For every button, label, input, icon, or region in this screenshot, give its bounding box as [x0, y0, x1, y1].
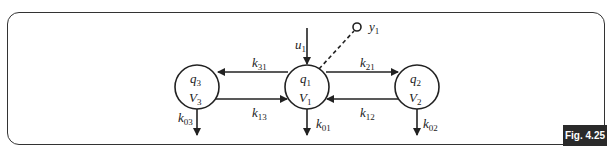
figure-number-label: Fig. 4.25 — [563, 125, 607, 146]
label-q3: q3 — [190, 71, 202, 88]
label-k02: k02 — [423, 116, 438, 133]
label-V2: V2 — [409, 90, 421, 107]
output-line-y1 — [319, 31, 354, 69]
label-V1: V1 — [299, 90, 311, 107]
label-y1: y1 — [367, 19, 379, 36]
label-q2: q2 — [410, 71, 421, 88]
label-q1: q1 — [300, 71, 311, 88]
compartment-diagram: q3 V3 q1 V1 q2 V2 k31 k13 k21 k12 k03 k0… — [0, 0, 614, 154]
output-node-y1 — [353, 23, 361, 31]
label-V3: V3 — [189, 90, 202, 107]
label-k01: k01 — [316, 116, 331, 133]
label-k13: k13 — [252, 105, 267, 122]
label-u1: u1 — [295, 37, 306, 54]
label-k31: k31 — [252, 55, 267, 72]
label-k03: k03 — [178, 110, 193, 127]
label-k21: k21 — [360, 55, 375, 72]
label-k12: k12 — [360, 105, 375, 122]
